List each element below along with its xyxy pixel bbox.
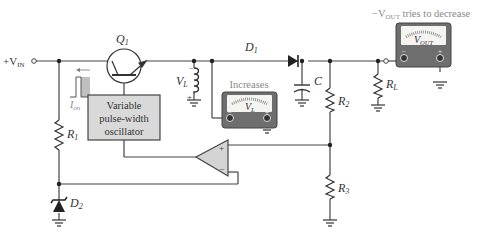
d1-label: D1 — [244, 40, 258, 55]
vout-meter-minus: − — [402, 48, 406, 56]
opamp-plus-label: + — [219, 143, 224, 153]
pulse-waveform-icon — [70, 68, 96, 97]
inductor-minus-label: − — [189, 64, 194, 73]
oscillator-label-line1: Variable — [107, 100, 142, 111]
vl-meter-annotation: Increases — [229, 79, 268, 90]
d2-label: D2 — [69, 196, 83, 211]
rl-label: RL — [385, 77, 398, 92]
opamp-minus-label: − — [219, 164, 224, 174]
inductor-plus-label: + — [187, 92, 192, 102]
vout-meter-plus: + — [438, 48, 442, 56]
r1-label: R1 — [66, 127, 78, 142]
circuit-diagram: +VIN Q1 Ion R1 D2 Variable pulse-width o… — [0, 0, 477, 235]
resistor-r3-icon — [326, 175, 334, 199]
oscillator-label-line3: oscillator — [104, 126, 144, 137]
oscillator-label-line2: pulse-width — [99, 113, 149, 124]
c-label: C — [314, 74, 323, 88]
transistor-q1-icon — [107, 49, 146, 83]
resistor-r2-icon — [326, 88, 334, 112]
vout-terminal — [384, 59, 389, 64]
vout-meter-annotation: −VOUT tries to decrease — [372, 8, 471, 21]
vin-terminal — [32, 59, 37, 64]
diode-d1-icon — [288, 55, 298, 67]
vl-meter-plus: + — [265, 109, 269, 117]
vl-meter-minus: − — [228, 109, 232, 117]
resistor-r1-icon — [55, 120, 63, 150]
vin-label: +VIN — [3, 55, 25, 69]
resistor-rl-icon — [374, 74, 382, 98]
inductor-icon — [194, 68, 199, 94]
r2-label: R2 — [337, 94, 349, 109]
ion-label: Ion — [69, 99, 81, 112]
q1-label: Q1 — [116, 32, 129, 47]
r3-label: R3 — [337, 181, 349, 196]
vl-label: VL — [176, 74, 188, 89]
